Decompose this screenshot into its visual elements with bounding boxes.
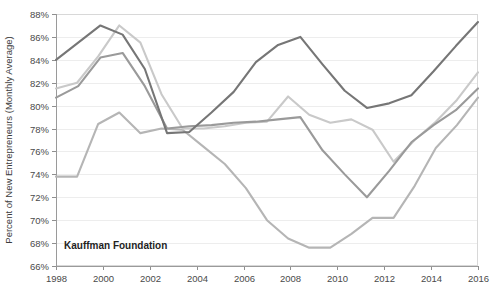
y-tick-label: 88% [30, 9, 50, 20]
y-tick-label: 72% [30, 192, 50, 203]
x-tick-label: 2010 [327, 273, 348, 284]
y-tick-label: 76% [30, 146, 50, 157]
x-tick-label: 2002 [140, 273, 161, 284]
y-tick-label: 80% [30, 101, 50, 112]
x-tick-label: 2008 [280, 273, 301, 284]
x-tick-label: 2006 [234, 273, 255, 284]
y-tick-label: 74% [30, 169, 50, 180]
x-tick-label: 2014 [421, 273, 442, 284]
y-tick-label: 70% [30, 215, 50, 226]
y-tick-label: 68% [30, 238, 50, 249]
x-tick-label: 2016 [468, 273, 489, 284]
y-tick-label: 82% [30, 78, 50, 89]
y-tick-label: 66% [30, 261, 50, 272]
y-tick-label: 78% [30, 124, 50, 135]
y-tick-label: 86% [30, 32, 50, 43]
x-tick-label: 2000 [93, 273, 114, 284]
kauffman-foundation-annotation: Kauffman Foundation [64, 240, 167, 251]
x-tick-label: 1998 [46, 273, 67, 284]
y-axis-title: Percent of New Entrepreneurs (Monthly Av… [3, 36, 14, 243]
y-tick-label: 84% [30, 55, 50, 66]
line-chart: 66%68%70%72%74%76%78%80%82%84%86%88% 199… [0, 0, 493, 295]
x-tick-label: 2004 [187, 273, 208, 284]
x-tick-label: 2012 [374, 273, 395, 284]
chart-container: 66%68%70%72%74%76%78%80%82%84%86%88% 199… [0, 0, 493, 295]
